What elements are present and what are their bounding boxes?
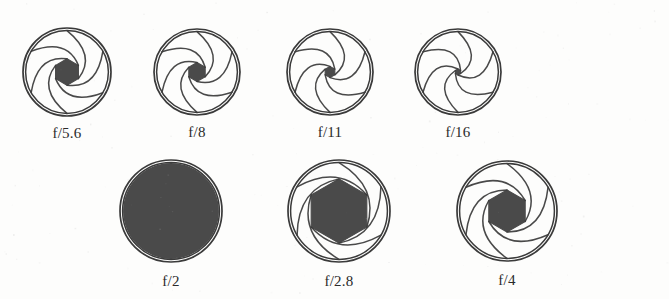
aperture-figure: f/5.6f/8f/11f/16f/2f/2.8f/4: [0, 0, 669, 299]
aperture-iris: [19, 24, 115, 120]
aperture-label: f/2: [162, 274, 179, 289]
aperture-cell-f-2: f/2: [116, 156, 226, 289]
aperture-iris: [116, 156, 226, 266]
aperture-cell-f-16: f/16: [411, 25, 505, 140]
aperture-cell-f-2-8: f/2.8: [284, 156, 394, 289]
aperture-iris: [284, 156, 394, 266]
aperture-label: f/16: [446, 125, 471, 140]
aperture-cell-f-4: f/4: [453, 157, 561, 288]
aperture-label: f/8: [188, 125, 205, 140]
aperture-cell-f-8: f/8: [150, 25, 244, 140]
aperture-iris: [150, 25, 244, 119]
aperture-iris: [453, 157, 561, 265]
aperture-cell-f-11: f/11: [283, 25, 377, 140]
aperture-cell-f-5-6: f/5.6: [19, 24, 115, 141]
aperture-label: f/4: [498, 273, 515, 288]
aperture-iris: [283, 25, 377, 119]
aperture-label: f/2.8: [325, 274, 354, 289]
aperture-iris: [411, 25, 505, 119]
aperture-label: f/11: [318, 125, 342, 140]
aperture-label: f/5.6: [53, 126, 82, 141]
